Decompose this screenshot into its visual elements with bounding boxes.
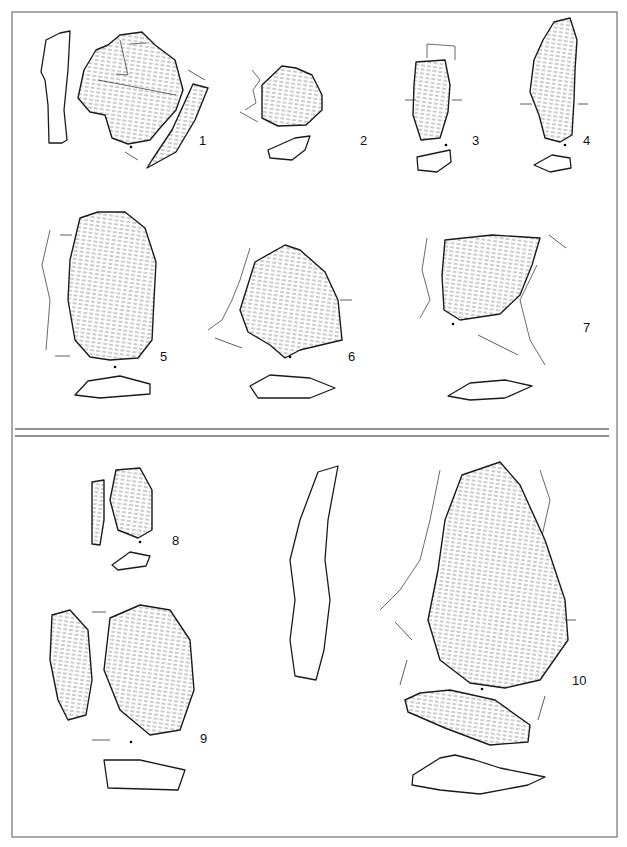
label-artifact-2: 2 bbox=[360, 133, 367, 148]
label-artifact-6: 6 bbox=[348, 349, 355, 364]
artifact-3 bbox=[405, 44, 462, 172]
artifact-10 bbox=[380, 462, 576, 794]
artifact-4 bbox=[520, 18, 588, 172]
label-artifact-9: 9 bbox=[200, 731, 207, 746]
label-artifact-8: 8 bbox=[172, 533, 179, 548]
artifact-9 bbox=[50, 605, 194, 790]
label-artifact-1: 1 bbox=[199, 133, 206, 148]
plate-drawing bbox=[0, 0, 627, 847]
label-artifact-4: 4 bbox=[583, 133, 590, 148]
label-artifact-3: 3 bbox=[472, 133, 479, 148]
artifact-5 bbox=[42, 212, 156, 398]
illustration-plate: 1 2 3 4 5 6 7 8 9 10 bbox=[0, 0, 627, 847]
label-artifact-10: 10 bbox=[572, 673, 586, 688]
artifact-6 bbox=[208, 245, 352, 398]
artifact-10-profile bbox=[290, 466, 338, 680]
artifact-2 bbox=[240, 66, 322, 160]
artifact-7 bbox=[420, 235, 566, 400]
artifact-8 bbox=[92, 468, 152, 570]
label-artifact-5: 5 bbox=[160, 349, 167, 364]
plate-frame bbox=[12, 12, 617, 837]
artifact-1 bbox=[41, 31, 208, 168]
label-artifact-7: 7 bbox=[583, 320, 590, 335]
